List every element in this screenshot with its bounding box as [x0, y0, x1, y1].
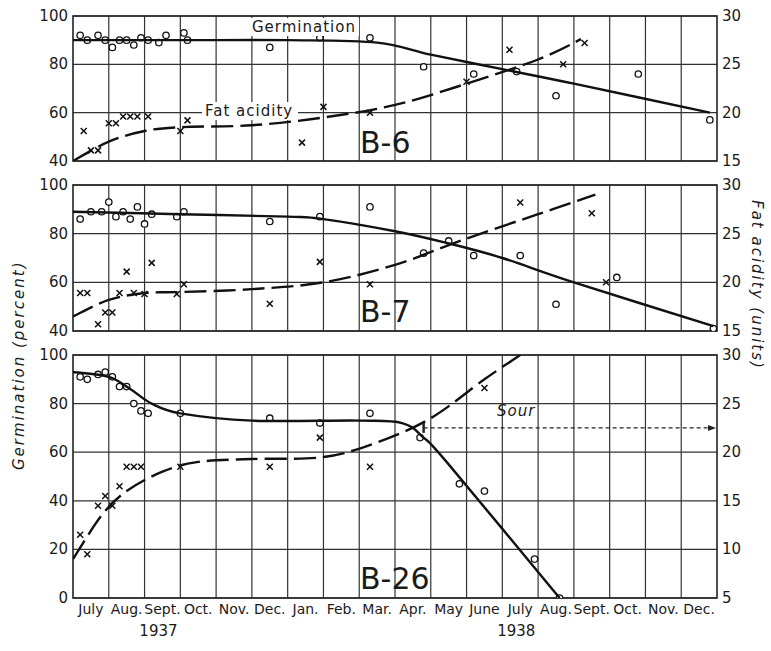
- month-label: Feb.: [327, 601, 356, 617]
- left-tick-label: 40: [49, 152, 68, 170]
- germination-curve: [73, 372, 560, 598]
- left-tick-label: 80: [49, 395, 68, 413]
- month-label: Nov.: [219, 601, 250, 617]
- fat-acidity-curve-label: Fat acidity: [205, 102, 293, 120]
- right-tick-label: 25: [722, 225, 741, 243]
- year-label: 1938: [497, 622, 535, 640]
- chart-canvas: 10080604030252015B-6GerminationFat acidi…: [0, 0, 771, 651]
- fat-acidity-points: [77, 200, 609, 328]
- month-label: Oct.: [184, 601, 213, 617]
- right-tick-label: 20: [722, 273, 741, 291]
- month-label: Dec.: [254, 601, 286, 617]
- germination-curve: [73, 40, 710, 113]
- x-axis-year-labels: 19371938: [139, 622, 535, 640]
- panel-b-26: 10080604020030252015105B-26Sour: [39, 346, 741, 607]
- month-label: Sept.: [144, 601, 180, 617]
- month-label: Jan.: [292, 601, 319, 617]
- fat-acidity-curve: [73, 39, 581, 161]
- right-tick-label: 15: [722, 322, 741, 340]
- panel-label: B-7: [360, 294, 411, 329]
- month-label: Dec.: [683, 601, 715, 617]
- left-tick-label: 100: [39, 346, 68, 364]
- year-label: 1937: [139, 622, 177, 640]
- left-tick-label: 40: [49, 492, 68, 510]
- panel-b-7: 10080604030252015B-7: [39, 176, 741, 340]
- right-tick-label: 5: [722, 589, 732, 607]
- month-label: July: [77, 601, 103, 617]
- right-tick-label: 25: [722, 395, 741, 413]
- right-tick-label: 30: [722, 176, 741, 194]
- left-tick-label: 80: [49, 225, 68, 243]
- left-tick-label: 40: [49, 322, 68, 340]
- sour-annotation: Sour: [497, 402, 535, 420]
- x-axis-month-labels: JulyAug.Sept.Oct.Nov.Dec.Jan.Feb.Mar.Apr…: [77, 601, 715, 617]
- right-tick-label: 20: [722, 104, 741, 122]
- fat-acidity-curve: [73, 355, 520, 559]
- month-label: Mar.: [362, 601, 392, 617]
- month-label: May: [434, 601, 463, 617]
- left-tick-label: 60: [49, 273, 68, 291]
- month-label: Aug.: [540, 601, 572, 617]
- fat-acidity-points: [81, 40, 588, 153]
- right-axis-title: Fat acidity (units): [748, 200, 766, 370]
- right-tick-label: 20: [722, 443, 741, 461]
- month-label: Aug.: [111, 601, 143, 617]
- left-tick-label: 60: [49, 443, 68, 461]
- left-tick-label: 80: [49, 55, 68, 73]
- left-tick-label: 100: [39, 7, 68, 25]
- panel-label: B-26: [360, 561, 430, 596]
- right-tick-label: 30: [722, 346, 741, 364]
- arrow-right-icon: [708, 425, 716, 431]
- month-label: Apr.: [399, 601, 426, 617]
- left-tick-label: 20: [49, 540, 68, 558]
- right-tick-label: 25: [722, 55, 741, 73]
- germination-curve-label: Germination: [252, 18, 356, 36]
- right-tick-label: 15: [722, 152, 741, 170]
- panel-b-6: 10080604030252015B-6GerminationFat acidi…: [39, 7, 741, 170]
- month-label: June: [468, 601, 500, 617]
- left-tick-label: 60: [49, 104, 68, 122]
- right-tick-label: 10: [722, 540, 741, 558]
- right-tick-label: 30: [722, 7, 741, 25]
- month-label: Oct.: [613, 601, 642, 617]
- month-label: July: [507, 601, 533, 617]
- left-tick-label: 0: [58, 589, 68, 607]
- panel-label: B-6: [360, 125, 411, 160]
- left-tick-label: 100: [39, 176, 68, 194]
- month-label: Sept.: [574, 601, 610, 617]
- right-tick-label: 15: [722, 492, 741, 510]
- left-axis-title: Germination (percent): [10, 261, 28, 470]
- figure-germination-fat-acidity: 10080604030252015B-6GerminationFat acidi…: [0, 0, 771, 651]
- month-label: Nov.: [648, 601, 679, 617]
